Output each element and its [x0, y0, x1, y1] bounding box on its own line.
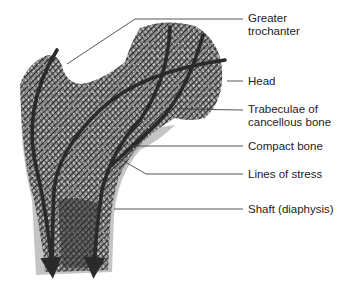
- femur-diagram: Greater trochanter Head Trabeculae of ca…: [0, 0, 343, 288]
- label-line: cancellous bone: [248, 116, 331, 129]
- label-trabeculae: Trabeculae of cancellous bone: [248, 103, 331, 129]
- label-compact-bone: Compact bone: [248, 140, 323, 153]
- label-greater-trochanter: Greater trochanter: [248, 12, 300, 38]
- label-line: Trabeculae of: [248, 103, 331, 116]
- label-shaft: Shaft (diaphysis): [248, 203, 334, 216]
- label-lines-of-stress: Lines of stress: [248, 168, 322, 181]
- label-line: Head: [248, 75, 276, 88]
- label-line: Shaft (diaphysis): [248, 203, 334, 216]
- label-line: Greater: [248, 12, 300, 25]
- label-line: Compact bone: [248, 140, 323, 153]
- label-line: Lines of stress: [248, 168, 322, 181]
- label-head: Head: [248, 75, 276, 88]
- label-line: trochanter: [248, 25, 300, 38]
